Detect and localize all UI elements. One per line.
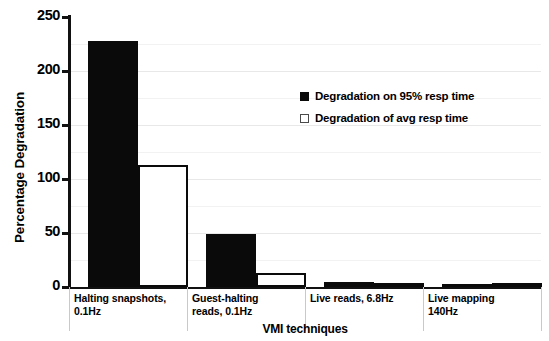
legend-item-0[interactable]: Degradation on 95% resp time [300, 90, 474, 102]
category-label-0-line2: 0.1Hz [74, 305, 186, 318]
category-label-3-line2: 140Hz [428, 305, 540, 318]
bar-g4-s1[interactable] [442, 284, 492, 287]
outlined-square-icon [300, 114, 309, 123]
bar-g1-s1[interactable] [88, 41, 138, 287]
bar-g2-s2[interactable] [256, 273, 306, 287]
legend-item-0-label: Degradation on 95% resp time [315, 90, 474, 102]
category-label-2-line1: Live reads, 6.8Hz [310, 292, 422, 305]
filled-square-icon [300, 92, 309, 101]
legend-item-1-label: Degradation of avg resp time [315, 112, 468, 124]
category-label-3: Live mapping 140Hz [428, 292, 540, 317]
legend: Degradation on 95% resp time Degradation… [300, 90, 474, 134]
y-tick-label-50: 50 [10, 223, 60, 239]
bar-g3-s2[interactable] [374, 283, 424, 287]
bar-g2-s1[interactable] [206, 234, 256, 287]
bar-g3-s1[interactable] [324, 282, 374, 287]
category-label-1: Guest-halting reads, 0.1Hz [192, 292, 304, 317]
category-label-0: Halting snapshots, 0.1Hz [74, 292, 186, 317]
y-tick-label-250: 250 [10, 7, 60, 23]
legend-item-1[interactable]: Degradation of avg resp time [300, 112, 474, 124]
y-tick-label-200: 200 [10, 61, 60, 77]
category-label-3-line1: Live mapping [428, 292, 540, 305]
bar-chart: Percentage Degradation 250 200 150 100 5… [0, 0, 549, 341]
plot-area [69, 17, 541, 287]
bar-g1-s2[interactable] [138, 165, 188, 287]
y-axis-title: Percentage Degradation [12, 53, 27, 283]
y-tick-label-150: 150 [10, 115, 60, 131]
y-tick-label-0: 0 [10, 277, 60, 293]
group-separator-4 [541, 287, 542, 331]
bar-g4-s2[interactable] [492, 283, 542, 287]
y-tick-label-100: 100 [10, 169, 60, 185]
category-label-1-line2: reads, 0.1Hz [192, 305, 304, 318]
category-label-1-line1: Guest-halting [192, 292, 304, 305]
category-label-0-line1: Halting snapshots, [74, 292, 186, 305]
x-axis-title: VMI techniques [69, 322, 541, 336]
category-label-2: Live reads, 6.8Hz [310, 292, 422, 305]
